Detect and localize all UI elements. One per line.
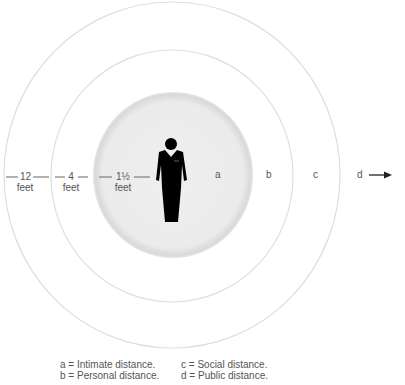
legend-left: a = Intimate distance. b = Personal dist… [60, 359, 159, 381]
legend-item-a: a = Intimate distance. [60, 359, 159, 370]
distance-label-12ft: 12 feet [0, 171, 50, 193]
distance-value: 4 [46, 171, 96, 182]
distance-label-4ft: 4 feet [46, 171, 96, 193]
legend-right: c = Social distance. d = Public distance… [181, 359, 268, 381]
distance-unit: feet [98, 182, 148, 193]
distance-label-1-5ft: 1½ feet [98, 171, 148, 193]
distance-unit: feet [46, 182, 96, 193]
zone-label-d: d [357, 169, 363, 180]
legend-item-b: b = Personal distance. [60, 370, 159, 381]
right-arrow-icon [369, 172, 392, 179]
distance-unit: feet [0, 182, 50, 193]
legend-item-d: d = Public distance. [181, 370, 268, 381]
distance-value: 1½ [98, 171, 148, 182]
distance-value: 12 [1, 171, 50, 182]
legend-item-c: c = Social distance. [181, 359, 268, 370]
zone-label-c: c [313, 169, 318, 180]
zone-label-a: a [215, 169, 221, 180]
zone-label-b: b [266, 169, 272, 180]
